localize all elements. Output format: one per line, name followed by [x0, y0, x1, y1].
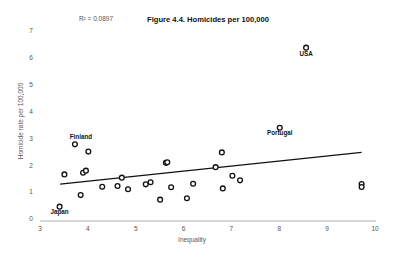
x-tick-label: 3	[38, 225, 42, 232]
data-point	[359, 185, 364, 190]
x-tick-label: 4	[86, 225, 90, 232]
trendline-group	[60, 152, 362, 184]
data-point	[238, 178, 243, 183]
data-point	[62, 172, 67, 177]
chart-title: Figure 4.4. Homicides per 100,000	[147, 15, 269, 24]
data-point	[73, 142, 78, 147]
data-point	[220, 186, 225, 191]
x-tick-label: 6	[182, 225, 186, 232]
x-tick-label: 10	[371, 225, 379, 232]
y-tick-label: 6	[29, 54, 33, 61]
r-squared-annotation: R² = 0.0897	[79, 15, 114, 22]
data-point	[115, 184, 120, 189]
y-tick-label: 7	[29, 27, 33, 34]
y-tick-label: 5	[29, 81, 33, 88]
data-point	[158, 197, 163, 202]
data-point	[169, 185, 174, 190]
x-tick-label: 7	[230, 225, 234, 232]
x-tick-label: 5	[134, 225, 138, 232]
data-point	[191, 181, 196, 186]
data-point	[119, 175, 124, 180]
y-tick-label: 1	[29, 188, 33, 195]
data-point	[86, 149, 91, 154]
data-point	[148, 180, 153, 185]
y-tick-label: 0	[29, 215, 33, 222]
y-tick-label: 4	[29, 108, 33, 115]
data-point	[230, 173, 235, 178]
x-tick-label: 8	[277, 225, 281, 232]
scatter-chart: Figure 4.4. Homicides per 100,000 R² = 0…	[0, 0, 394, 260]
data-point	[100, 184, 105, 189]
data-point	[78, 193, 83, 198]
data-point	[213, 165, 218, 170]
data-point	[84, 168, 89, 173]
x-tick-label: 9	[325, 225, 329, 232]
data-point	[219, 150, 224, 155]
y-tick-labels: 01234567	[29, 27, 33, 222]
y-tick-label: 2	[29, 162, 33, 169]
point-label: Finland	[70, 133, 93, 140]
point-label: Japan	[51, 208, 69, 216]
data-point	[165, 160, 170, 165]
data-point	[143, 182, 148, 187]
point-label: Portugal	[267, 129, 293, 137]
data-points	[57, 45, 364, 209]
x-tick-labels: 345678910	[38, 225, 379, 232]
trendline	[60, 152, 362, 184]
data-point	[185, 196, 190, 201]
y-axis-label: Homicide rate per 100,000	[17, 82, 25, 159]
x-axis-label: Inequality	[178, 236, 207, 244]
point-labels: JapanFinlandPortugalUSA	[51, 50, 314, 216]
data-point	[126, 187, 131, 192]
y-tick-label: 3	[29, 135, 33, 142]
point-label: USA	[299, 50, 313, 57]
